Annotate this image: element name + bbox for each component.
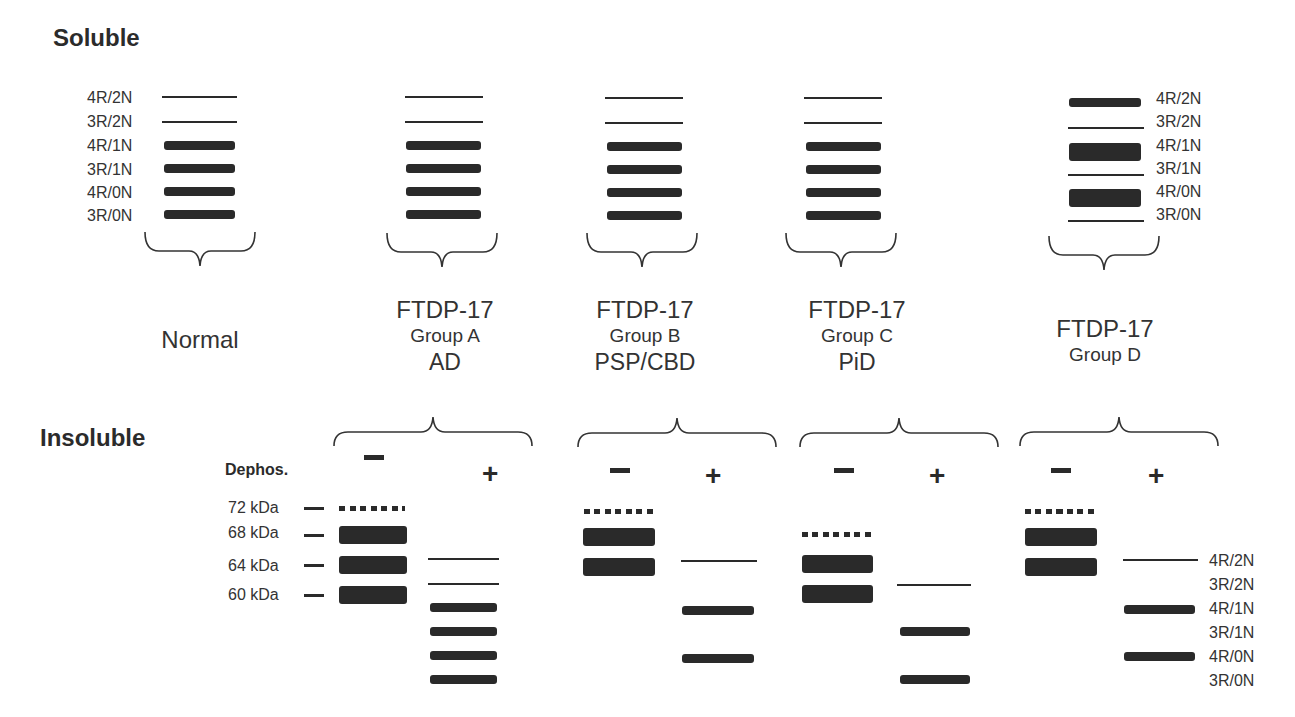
- isoform-label: 3R/1N: [1209, 625, 1254, 641]
- plus-sign-d: +: [1148, 460, 1164, 492]
- band-dotted: [584, 509, 653, 514]
- minus-sign-b: [610, 468, 630, 473]
- band: [339, 526, 407, 544]
- minus-sign-d: [1051, 468, 1071, 473]
- band: [428, 583, 499, 585]
- band: [900, 675, 970, 684]
- mw-tick: [304, 534, 324, 537]
- band-dotted: [1025, 509, 1094, 514]
- band: [802, 555, 873, 573]
- band: [339, 556, 407, 574]
- band: [900, 627, 970, 636]
- band: [430, 675, 497, 684]
- band: [1124, 652, 1195, 661]
- mw-tick: [304, 507, 324, 510]
- mw-tick: [304, 564, 324, 567]
- band: [339, 586, 407, 604]
- isoform-label: 4R/1N: [1209, 601, 1254, 617]
- mw-tick: [304, 594, 324, 597]
- plus-sign-c: +: [929, 460, 945, 492]
- band: [681, 560, 757, 562]
- minus-sign-c: [834, 468, 854, 473]
- band-dotted: [339, 506, 405, 511]
- band-dotted: [802, 532, 871, 537]
- band: [897, 584, 971, 586]
- mw-label: 68 kDa: [228, 525, 279, 541]
- isoform-label: 4R/2N: [1209, 553, 1254, 569]
- band: [583, 528, 655, 546]
- insoluble-braces: [0, 0, 1295, 717]
- mw-label: 72 kDa: [228, 500, 279, 516]
- band: [682, 606, 754, 615]
- band: [428, 558, 499, 560]
- plus-sign-a: +: [482, 458, 498, 490]
- isoform-label: 3R/2N: [1209, 577, 1254, 593]
- band: [430, 627, 497, 636]
- mw-label: 64 kDa: [228, 558, 279, 574]
- minus-sign-a: [364, 455, 384, 460]
- band: [682, 654, 754, 663]
- band: [1025, 528, 1097, 546]
- band: [430, 603, 497, 612]
- isoform-label: 4R/0N: [1209, 649, 1254, 665]
- band: [1124, 605, 1195, 614]
- band: [802, 585, 873, 603]
- band: [430, 651, 497, 660]
- isoform-label: 3R/0N: [1209, 673, 1254, 689]
- band: [1025, 558, 1097, 576]
- mw-label: 60 kDa: [228, 587, 279, 603]
- band: [1123, 559, 1198, 561]
- dephos-label: Dephos.: [225, 461, 288, 479]
- plus-sign-b: +: [705, 460, 721, 492]
- band: [583, 558, 655, 576]
